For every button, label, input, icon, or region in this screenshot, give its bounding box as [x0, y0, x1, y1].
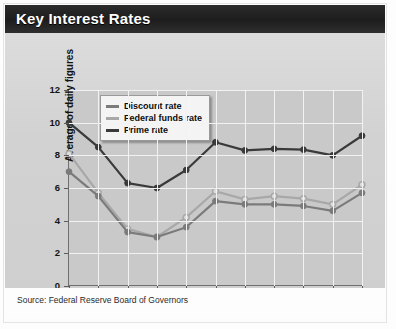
y-axis-tick-label: 2	[36, 247, 60, 258]
gridline-vertical	[186, 90, 187, 286]
chart-panel: Average of daily figures Year Discount r…	[5, 33, 385, 288]
chart-legend: Discount rate Federal funds rate Prime r…	[100, 95, 210, 141]
legend-swatch-prime-rate	[106, 129, 119, 132]
y-axis-tick	[64, 253, 69, 254]
y-axis-tick-label: 4	[36, 215, 60, 226]
y-axis-tick	[64, 188, 69, 189]
y-axis-tick-label: 6	[36, 182, 60, 193]
figure-frame: Key Interest Rates Average of daily figu…	[0, 0, 396, 329]
y-axis-tick	[64, 221, 69, 222]
plot-area: Average of daily figures Year Discount r…	[68, 90, 362, 286]
gridline-vertical	[333, 90, 334, 286]
y-axis-tick	[64, 155, 69, 156]
gridline-vertical	[216, 90, 217, 286]
gridline-vertical	[274, 90, 275, 286]
legend-swatch-discount-rate	[106, 105, 119, 108]
legend-label-federal-funds-rate: Federal funds rate	[124, 113, 202, 123]
legend-swatch-federal-funds-rate	[106, 117, 119, 120]
chart-title-bar: Key Interest Rates	[5, 5, 385, 33]
gridline-vertical	[98, 90, 99, 286]
y-axis-tick	[64, 123, 69, 124]
legend-item: Discount rate	[106, 100, 202, 112]
legend-label-prime-rate: Prime rate	[124, 125, 168, 135]
legend-label-discount-rate: Discount rate	[124, 101, 182, 111]
gridline-vertical	[128, 90, 129, 286]
y-axis-tick-label: 10	[36, 117, 60, 128]
y-axis-tick-label: 8	[36, 149, 60, 160]
y-axis-tick	[64, 90, 69, 91]
data-point	[66, 169, 72, 175]
gridline-vertical	[157, 90, 158, 286]
gridline-vertical	[245, 90, 246, 286]
legend-item: Prime rate	[106, 124, 202, 136]
y-axis-tick-label: 12	[36, 84, 60, 95]
source-note: Source: Federal Reserve Board of Governo…	[17, 295, 188, 305]
gridline-vertical	[362, 90, 363, 286]
chart-title: Key Interest Rates	[16, 10, 151, 27]
gridline-vertical	[303, 90, 304, 286]
